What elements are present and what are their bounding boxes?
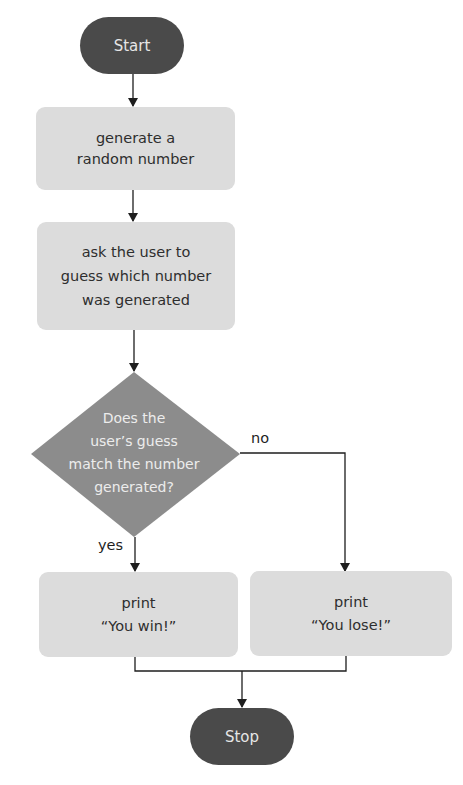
decision-question: Does the user’s guess match the number g… bbox=[44, 407, 224, 499]
generate-number-step: generate a random number bbox=[36, 107, 235, 190]
merge-line bbox=[135, 656, 346, 671]
win-line-1: print bbox=[121, 592, 155, 615]
print-lose-step: print “You lose!” bbox=[250, 571, 452, 656]
lose-line-2: “You lose!” bbox=[311, 614, 391, 637]
ask-line-2: guess which number bbox=[61, 264, 211, 288]
ask-user-step: ask the user to guess which number was g… bbox=[37, 222, 235, 330]
start-label: Start bbox=[114, 37, 151, 55]
lose-line-1: print bbox=[334, 591, 368, 614]
decision-line-3: match the number bbox=[44, 453, 224, 476]
generate-line-1: generate a bbox=[96, 128, 175, 149]
ask-line-3: was generated bbox=[82, 288, 190, 312]
decision-line-1: Does the bbox=[44, 407, 224, 430]
stop-terminal: Stop bbox=[190, 708, 294, 765]
arrow-decision-no bbox=[240, 453, 345, 571]
decision-line-4: generated? bbox=[44, 476, 224, 499]
no-branch-label: no bbox=[251, 430, 269, 446]
stop-label: Stop bbox=[225, 728, 259, 746]
ask-line-1: ask the user to bbox=[82, 240, 191, 264]
decision-line-2: user’s guess bbox=[44, 430, 224, 453]
yes-branch-label: yes bbox=[98, 537, 123, 553]
generate-line-2: random number bbox=[77, 149, 194, 170]
start-terminal: Start bbox=[80, 17, 184, 74]
print-win-step: print “You win!” bbox=[39, 572, 238, 657]
win-line-2: “You win!” bbox=[101, 615, 177, 638]
